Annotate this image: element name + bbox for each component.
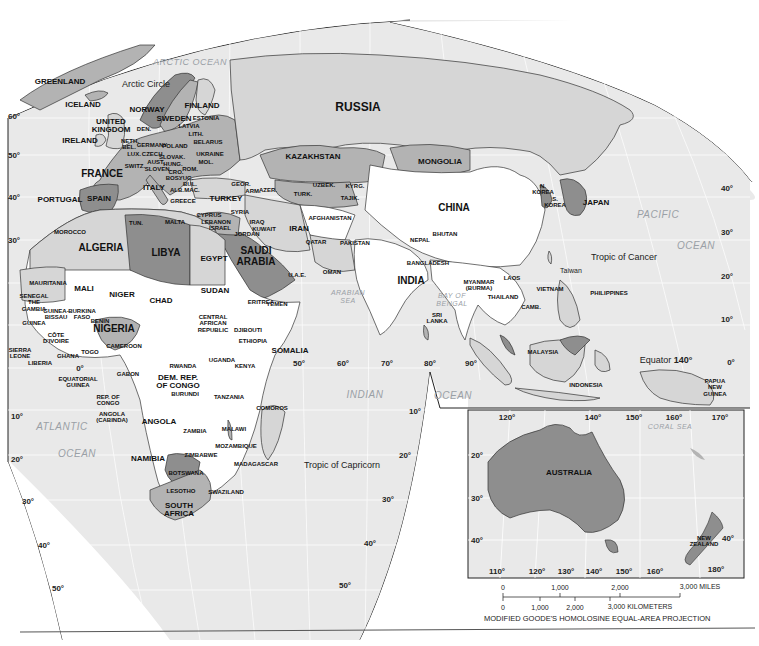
lat-label-indian: 10° xyxy=(409,407,421,416)
label-swaziland: SWAZILAND xyxy=(208,489,244,495)
lat-label: 30° xyxy=(22,497,34,506)
lon-label: 70° xyxy=(381,359,393,368)
scale-miles-3000: 3,000 MILES xyxy=(680,583,720,590)
label-somalia: SOMALIA xyxy=(272,347,309,355)
label-den: DEN. xyxy=(137,126,151,132)
label-turk: TURK. xyxy=(294,191,312,197)
label-nigeria: NIGERIA xyxy=(93,324,135,335)
label-poland: POLAND xyxy=(162,143,187,149)
label-nkorea: N. KOREA xyxy=(532,183,554,196)
label-afghanistan: AFGHANISTAN xyxy=(308,215,351,221)
label-latvia: LATVIA xyxy=(178,123,199,129)
label-bel: BEL. xyxy=(122,144,136,150)
label-indian-2: OCEAN xyxy=(434,390,472,401)
label-arabian-sea: ARABIAN SEA xyxy=(331,289,365,304)
label-rep-congo: REP. OF CONGO xyxy=(96,394,119,407)
label-gabon: GABON xyxy=(117,371,139,377)
label-uae: U.A.E. xyxy=(288,272,306,278)
label-drc: DEM. REP. OF CONGO xyxy=(156,374,200,391)
label-uzbek: UZBEK. xyxy=(313,182,335,188)
label-guinea-bissau: GUINEA- BISSAU xyxy=(43,308,68,321)
projection-caption: MODIFIED GOODE'S HOMOLOSINE EQUAL-AREA P… xyxy=(484,614,710,623)
label-eritrea: ERITREA xyxy=(248,299,274,305)
label-vietnam: VIETNAM xyxy=(537,286,564,292)
label-philippines: PHILIPPINES xyxy=(590,290,627,296)
scale-km-2000: 2,000 xyxy=(566,604,584,611)
label-syria: SYRIA xyxy=(231,209,249,215)
lat-label-right: 10° xyxy=(721,315,733,324)
label-russia: RUSSIA xyxy=(335,101,380,114)
label-arctic-circle: Arctic Circle xyxy=(122,79,170,89)
label-uk: UNITED KINGDOM xyxy=(92,118,131,135)
label-cote-divoire: CÔTE D'IVOIRE xyxy=(43,332,69,345)
lat-label: 40° xyxy=(38,541,50,550)
label-lux: LUX. xyxy=(127,151,141,157)
lat-label: 50° xyxy=(8,151,20,160)
label-ireland: IRELAND xyxy=(62,137,98,145)
label-greece: GREECE xyxy=(170,198,195,204)
lat-label-indian: 40° xyxy=(364,539,376,548)
label-turkey: TURKEY xyxy=(210,195,243,203)
label-lesotho: LESOTHO xyxy=(166,488,195,494)
inset-lon-top: 160° xyxy=(666,413,683,422)
label-comoros: COMOROS xyxy=(256,405,288,411)
label-rwanda: RWANDA xyxy=(170,363,197,369)
label-bhutan: BHUTAN xyxy=(433,231,458,237)
label-sudan: SUDAN xyxy=(201,287,229,295)
label-taiwan: Taiwan xyxy=(560,267,582,274)
label-bay-of-bengal: BAY OF BENGAL xyxy=(436,292,467,307)
lon-label: 80° xyxy=(424,359,436,368)
label-new-zealand: NEW ZEALAND xyxy=(690,535,719,548)
label-zambia: ZAMBIA xyxy=(183,428,206,434)
label-qatar: QATAR xyxy=(306,239,326,245)
label-france: FRANCE xyxy=(81,169,123,180)
label-india: INDIA xyxy=(397,276,424,287)
label-ukraine: UKRAINE xyxy=(196,151,223,157)
lat-label: 20° xyxy=(11,455,23,464)
inset-lon-top: 140° xyxy=(585,413,602,422)
label-lith: LITH. xyxy=(189,131,204,137)
label-mauritania: MAURITANIA xyxy=(29,280,67,286)
label-pakistan: PAKISTAN xyxy=(340,240,370,246)
inset-lon-top: 150° xyxy=(626,413,643,422)
label-thailand: THAILAND xyxy=(488,294,519,300)
inset-lat-left: 20° xyxy=(471,451,483,460)
label-spain: SPAIN xyxy=(87,195,111,203)
label-malawi: MALAWI xyxy=(222,426,246,432)
lon-label: 90° xyxy=(465,359,477,368)
lat-label-indian: 50° xyxy=(339,581,351,590)
inset-lon-bottom: 180° xyxy=(708,565,725,574)
label-indian-1: INDIAN xyxy=(347,389,384,400)
label-myanmar: MYANMAR (BURMA) xyxy=(464,279,495,292)
label-niger: NIGER xyxy=(109,291,134,299)
inset-lat-right: 40° xyxy=(722,534,734,543)
label-kazakhstan: KAZAKHSTAN xyxy=(286,153,341,161)
label-tropic-capricorn: Tropic of Capricorn xyxy=(304,460,380,470)
label-kyrg: KYRG. xyxy=(345,183,364,189)
scale-km-3000: 3,000 KILOMETERS xyxy=(608,603,673,610)
label-algeria: ALGERIA xyxy=(79,243,124,254)
label-switz: SWITZ. xyxy=(125,163,145,169)
label-italy: ITALY xyxy=(143,184,165,192)
label-uganda: UGANDA xyxy=(209,357,235,363)
label-ghana: GHANA xyxy=(57,353,79,359)
inset-lon-bottom: 110° xyxy=(489,567,505,576)
label-morocco: MOROCCO xyxy=(54,229,86,235)
scale-km-0: 0 xyxy=(501,604,505,611)
label-cameroon: CAMEROON xyxy=(106,343,142,349)
label-tropic-cancer: Tropic of Cancer xyxy=(591,252,657,262)
inset-lon-bottom: 150° xyxy=(616,567,633,576)
label-arctic-ocean: ARCTIC OCEAN xyxy=(153,58,227,68)
inset-lat-left: 40° xyxy=(471,536,483,545)
inset-lon-bottom: 120° xyxy=(529,567,546,576)
label-botswana: BOTSWANA xyxy=(169,470,204,476)
lat-label-right: 0° xyxy=(727,358,735,367)
lat-label: 60° xyxy=(8,112,20,121)
label-cabinda: ANGOLA (CABINDA) xyxy=(96,411,128,424)
scale-bar xyxy=(503,593,680,601)
label-laos: LAOS xyxy=(504,275,521,281)
inset-lon-bottom: 130° xyxy=(558,567,575,576)
lat-label: 50° xyxy=(52,584,64,593)
label-mozambique: MOZAMBIQUE xyxy=(215,443,257,449)
label-iran: IRAN xyxy=(289,225,309,233)
